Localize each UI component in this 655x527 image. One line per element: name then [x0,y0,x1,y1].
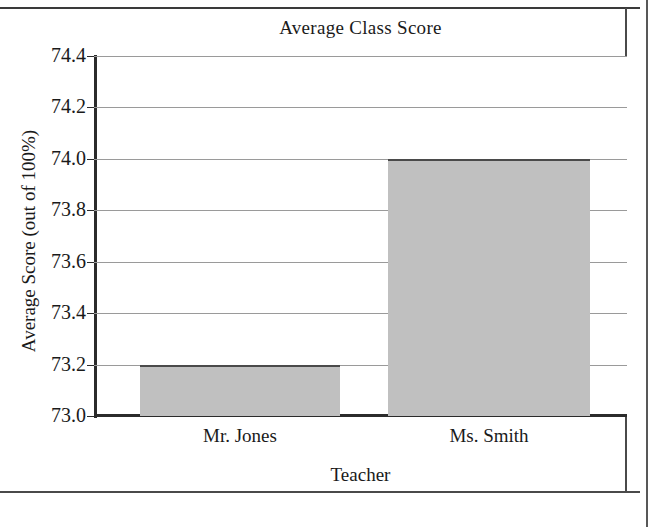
bar-chart-figure: Average Class Score Average Score (out o… [0,8,627,492]
y-axis-line [94,55,97,418]
x-axis-title: Teacher [94,463,627,487]
y-tick-label: 73.4 [24,302,86,322]
y-tick-mark [87,313,94,314]
y-tick-label: 73.6 [24,251,86,271]
y-tick-label: 73.0 [24,405,86,425]
y-tick-label: 73.8 [24,199,86,219]
y-tick-mark [87,365,94,366]
x-category-label: Ms. Smith [348,425,630,447]
y-tick-label: 74.2 [24,96,86,116]
bar-mr-jones[interactable] [140,365,340,416]
y-tick-mark [87,159,94,160]
y-tick-mark [87,262,94,263]
x-category-label: Mr. Jones [100,425,380,447]
gridline [94,56,627,57]
y-tick-label: 74.0 [24,148,86,168]
y-tick-label: 74.4 [24,45,86,65]
y-tick-mark [87,416,94,417]
y-tick-mark [87,210,94,211]
bar-ms-smith[interactable] [388,159,590,416]
page-column-separator [646,0,648,527]
gridline [94,107,627,108]
chart-title: Average Class Score [94,16,627,40]
y-tick-mark [87,56,94,57]
y-tick-mark [87,107,94,108]
y-tick-label: 73.2 [24,354,86,374]
